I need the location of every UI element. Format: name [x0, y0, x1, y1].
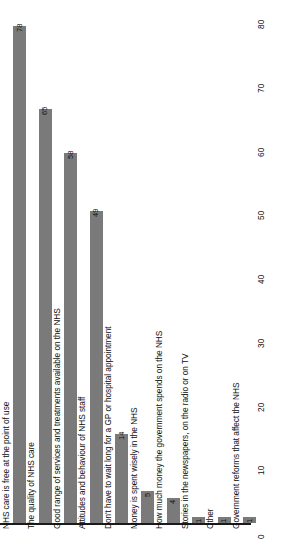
bar-value-label: 14 [117, 431, 126, 440]
bar-value-label: 1 [219, 518, 228, 522]
bar [64, 153, 77, 523]
category-label: How much money the government spends on … [154, 331, 164, 529]
bar-value-label: 1 [194, 518, 203, 522]
category-label: NHS care is free at the point of use [1, 402, 11, 529]
bar [90, 211, 103, 523]
bar-group [64, 0, 77, 523]
category-label: Good range of services and treatments av… [52, 308, 62, 529]
tick-label: 70 [256, 83, 266, 92]
bar-value-label: 58 [66, 151, 75, 160]
tick-label: 10 [256, 466, 266, 475]
tick-label: 60 [256, 147, 266, 156]
bar-group [141, 0, 154, 523]
bar-chart: 78NHS care is free at the point of use65… [0, 0, 284, 540]
category-label: Government reforms that affect the NHS [231, 383, 241, 529]
tick-label: 0 [256, 534, 266, 539]
category-label: Other [205, 508, 215, 529]
bar-group [218, 0, 231, 523]
bar-group [90, 0, 103, 523]
bar-value-label: 5 [143, 493, 152, 497]
tick-label: 50 [256, 211, 266, 220]
tick-label: 40 [256, 275, 266, 284]
category-label: Attitudes and behaviour of NHS staff [77, 397, 87, 529]
tick-label: 80 [256, 20, 266, 29]
category-label: The quality of NHS care [26, 442, 36, 529]
bar [13, 26, 26, 523]
bar [39, 109, 52, 523]
bar-group [39, 0, 52, 523]
bar-value-label: 65 [40, 106, 49, 115]
bar-value-label: 78 [15, 23, 24, 32]
tick-label: 30 [256, 338, 266, 347]
bar-group [115, 0, 128, 523]
bar-group [167, 0, 180, 523]
category-label: Money is spent wisely in the NHS [129, 407, 139, 529]
tick-label: 20 [256, 402, 266, 411]
bar-group [192, 0, 205, 523]
bar-value-label: 1 [245, 518, 254, 522]
bar-group [243, 0, 256, 523]
category-label: Stories in the newspapers, on the radio … [180, 354, 190, 529]
plot-area: 78NHS care is free at the point of use65… [0, 0, 284, 540]
bar [115, 434, 128, 523]
bar-value-label: 49 [91, 208, 100, 217]
category-label: Don't have to wait long for a GP or hosp… [103, 327, 113, 530]
bar-group [13, 0, 26, 523]
bar-value-label: 4 [168, 499, 177, 503]
